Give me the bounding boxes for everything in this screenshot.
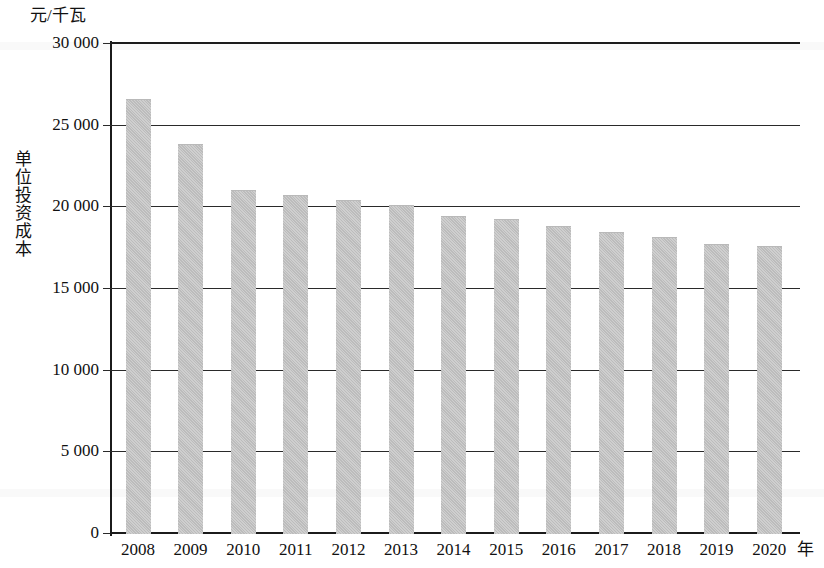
gridline	[110, 206, 800, 207]
x-axis-tick-label: 2013	[375, 540, 427, 560]
bar	[652, 237, 677, 534]
bar	[599, 232, 624, 534]
x-axis-tick-label: 2012	[322, 540, 374, 560]
y-axis-tick	[103, 206, 110, 207]
y-axis-tick-label: 5 000	[7, 442, 99, 459]
x-axis-tick-label: 2016	[533, 540, 585, 560]
y-axis-tick-label: 30 000	[7, 34, 99, 51]
bar	[283, 195, 308, 534]
y-axis-tick	[103, 288, 110, 289]
y-axis-tick	[103, 451, 110, 452]
x-axis-tick-label: 2009	[165, 540, 217, 560]
bar	[757, 246, 782, 534]
x-axis-tick-label: 2014	[428, 540, 480, 560]
gridline	[110, 42, 800, 44]
bar	[704, 244, 729, 534]
y-axis-tick-label: 25 000	[7, 116, 99, 133]
y-axis-tick-label: 15 000	[7, 279, 99, 296]
bar	[126, 99, 151, 534]
x-axis-tick-label: 2018	[638, 540, 690, 560]
x-axis-tick-label: 2019	[691, 540, 743, 560]
x-axis-tick-label: 2015	[480, 540, 532, 560]
bar	[389, 205, 414, 534]
bar	[494, 219, 519, 534]
y-axis-tick-label: 10 000	[7, 361, 99, 378]
x-axis-tick-label: 2010	[217, 540, 269, 560]
y-axis-tick	[103, 43, 110, 44]
bar	[546, 226, 571, 534]
x-axis-tick-label: 2017	[585, 540, 637, 560]
bar	[336, 200, 361, 534]
x-axis-unit-label: 年	[797, 540, 814, 560]
y-axis-tick-label: 0	[7, 524, 99, 541]
bar	[231, 190, 256, 534]
y-axis-tick	[103, 533, 110, 534]
x-axis-tick-label: 2008	[112, 540, 164, 560]
x-axis-tick-label: 2020	[743, 540, 795, 560]
gridline	[110, 125, 800, 126]
y-axis-tick-label: 20 000	[7, 197, 99, 214]
y-axis-unit-caption: 元/千瓦	[30, 6, 86, 26]
bar	[178, 144, 203, 534]
y-axis-tick	[103, 370, 110, 371]
bar	[441, 216, 466, 534]
x-axis-tick-label: 2011	[270, 540, 322, 560]
bar-chart: 元/千瓦 单位投资成本 05 00010 00015 00020 00025 0…	[0, 0, 824, 568]
y-axis-tick	[103, 125, 110, 126]
